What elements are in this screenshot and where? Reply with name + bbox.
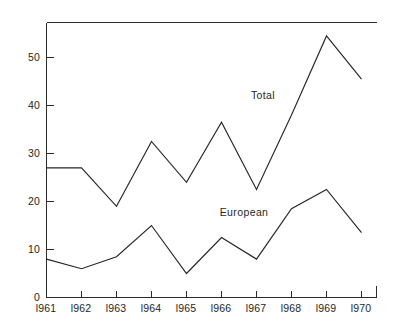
x-tick-label-1967: l967	[246, 302, 267, 314]
x-tick-label-1963: l963	[106, 302, 127, 314]
y-tick-marks	[47, 58, 54, 298]
y-tick-label-40: 40	[28, 99, 40, 111]
x-tick-label-1965: l965	[176, 302, 197, 314]
x-tick-label-1969: l969	[316, 302, 337, 314]
x-tick-label-1962: l962	[71, 302, 92, 314]
x-tick-label-1970: l970	[351, 302, 372, 314]
series-label-total: Total	[251, 89, 275, 101]
y-tick-label-30: 30	[28, 147, 40, 159]
y-tick-label-20: 20	[28, 195, 40, 207]
chart-canvas: 0 10 20 30 40 50 l961 l962 l963 l964 l	[0, 0, 403, 328]
y-tick-label-10: 10	[28, 243, 40, 255]
x-tick-labels: l961 l962 l963 l964 l965 l966 l967 l968 …	[36, 302, 372, 314]
x-tick-label-1968: l968	[281, 302, 302, 314]
line-chart: 0 10 20 30 40 50 l961 l962 l963 l964 l	[0, 0, 403, 328]
series-line-total	[47, 36, 362, 206]
y-tick-label-50: 50	[28, 51, 40, 63]
y-tick-labels: 0 10 20 30 40 50	[28, 51, 40, 303]
x-tick-label-1961: l961	[36, 302, 57, 314]
series-label-european: European	[220, 206, 269, 218]
series-line-european	[47, 190, 362, 274]
x-tick-label-1964: l964	[141, 302, 162, 314]
x-tick-marks	[47, 291, 362, 298]
x-tick-label-1966: l966	[211, 302, 232, 314]
